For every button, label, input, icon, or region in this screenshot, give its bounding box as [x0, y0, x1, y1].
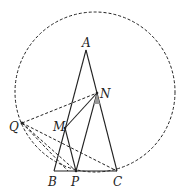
point-N — [96, 92, 99, 95]
label-A: A — [81, 36, 91, 50]
point-Q — [21, 122, 24, 125]
label-B: B — [47, 175, 57, 189]
label-M: M — [52, 120, 66, 134]
point-P — [75, 170, 78, 173]
segment-QP — [22, 123, 76, 171]
segment-AC — [86, 50, 117, 171]
segment-MP — [65, 128, 76, 171]
label-N: N — [99, 87, 111, 101]
label-C: C — [113, 175, 122, 189]
geometry-diagram: A N M Q B P C — [0, 0, 177, 196]
label-Q: Q — [9, 120, 19, 134]
label-P: P — [70, 175, 80, 189]
segment-QN — [22, 93, 97, 123]
dashed-circle — [15, 12, 175, 172]
